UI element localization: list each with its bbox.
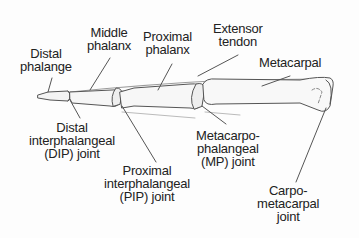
leader-distal-phalange: [48, 78, 52, 92]
finger-anatomy-diagram: Distal phalange Middle phalanx Proximal …: [0, 0, 359, 238]
label-distal-phalange: Distal phalange: [20, 47, 72, 73]
proximal-phalanx-bone: [120, 84, 202, 109]
label-dip-joint: Distal interphalangeal (DIP) joint: [29, 121, 115, 160]
label-middle-phalanx: Middle phalanx: [87, 26, 131, 52]
leader-middle-phalanx: [90, 58, 110, 90]
label-mp-joint: Metacarpo- phalangeal (MP) joint: [196, 129, 260, 168]
label-metacarpal: Metacarpal: [259, 56, 321, 69]
leader-mp-joint: [202, 106, 226, 124]
label-proximal-phalanx: Proximal phalanx: [143, 30, 192, 56]
label-extensor-tendon: Extensor tendon: [213, 22, 263, 48]
distal-phalanx-bone: [38, 91, 70, 101]
metacarpal-bone: [203, 77, 333, 111]
leader-extensor-tendon: [198, 55, 238, 76]
label-pip-joint: Proximal interphalangeal (PIP) joint: [104, 164, 190, 203]
leader-cmc-joint: [296, 108, 326, 182]
label-cmc-joint: Carpo- metacarpal joint: [257, 184, 319, 223]
